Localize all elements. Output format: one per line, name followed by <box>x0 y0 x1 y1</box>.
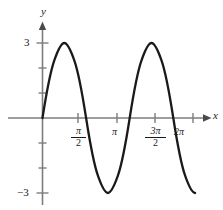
x-tick-label-2pi: 2π <box>174 127 184 137</box>
x-axis-label: x <box>213 110 218 121</box>
y-axis-label: y <box>41 6 46 17</box>
y-tick-label-minus-3: −3 <box>17 187 29 198</box>
x-tick-label-pi: π <box>112 127 117 137</box>
sine-graph-figure <box>0 0 223 210</box>
y-tick-label-3: 3 <box>24 37 30 48</box>
x-tick-label-3pi-over-2-numerator: 3π <box>144 126 167 137</box>
x-tick-label-3pi-over-2: 3π 2 <box>144 126 167 148</box>
x-axis <box>8 114 212 122</box>
x-tick-label-3pi-over-2-denominator: 2 <box>144 138 167 149</box>
x-tick-label-pi-over-2-denominator: 2 <box>70 138 87 149</box>
x-tick-label-pi-over-2: π 2 <box>70 126 87 148</box>
x-tick-label-pi-over-2-numerator: π <box>70 126 87 137</box>
